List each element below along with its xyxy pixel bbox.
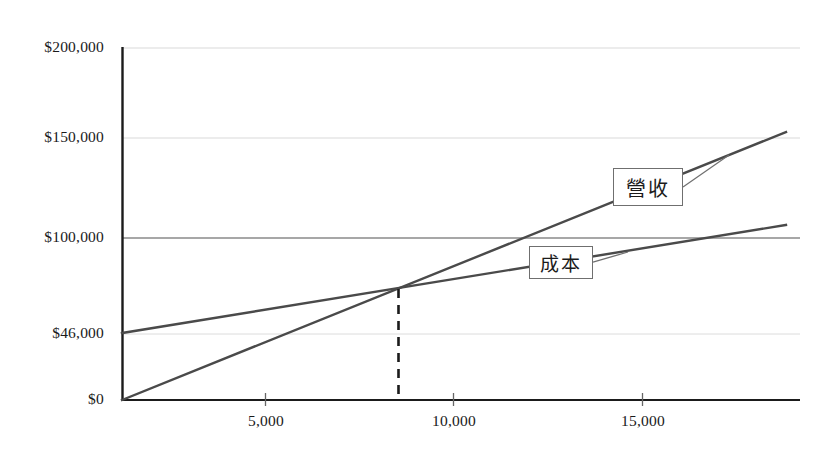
x-tick-label-15000: 15,000 <box>598 412 688 430</box>
y-tick-46000: $46,000 <box>0 324 112 344</box>
y-tick-label-200000: $200,000 <box>44 38 104 56</box>
y-tick-100000: $100,000 <box>0 228 112 248</box>
cost-line <box>122 225 786 333</box>
y-tick-label-0: $0 <box>88 390 104 408</box>
revenue-line <box>122 132 786 400</box>
chart-canvas: $200,000 $150,000 $100,000 $46,000 $0 5,… <box>0 0 814 459</box>
series-callout-cost: 成本 <box>529 246 593 279</box>
y-tick-label-100000: $100,000 <box>44 228 104 246</box>
y-tick-0: $0 <box>0 390 112 410</box>
x-tick-label-10000: 10,000 <box>409 412 499 430</box>
y-tick-label-46000: $46,000 <box>52 324 104 342</box>
y-tick-150000: $150,000 <box>0 128 112 148</box>
y-tick-200000: $200,000 <box>0 38 112 58</box>
x-tick-label-5000: 5,000 <box>221 412 311 430</box>
chart-plot <box>0 0 814 459</box>
y-tick-label-150000: $150,000 <box>44 128 104 146</box>
series-callout-revenue: 營收 <box>613 168 683 206</box>
